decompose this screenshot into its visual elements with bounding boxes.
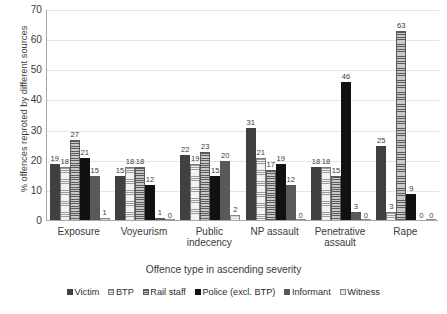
bar-item[interactable]: 15 bbox=[210, 10, 220, 221]
bar-group: 1818154630 bbox=[308, 10, 373, 221]
bar-group-bars: 1518181210 bbox=[112, 10, 177, 221]
bar-item[interactable]: 3 bbox=[386, 10, 396, 221]
bar-group: 1518181210 bbox=[112, 10, 177, 221]
bar-btp[interactable] bbox=[125, 167, 135, 221]
bar-victim[interactable] bbox=[115, 176, 125, 221]
bar-item[interactable]: 25 bbox=[376, 10, 386, 221]
bar-victim[interactable] bbox=[180, 155, 190, 221]
bar-item[interactable]: 46 bbox=[341, 10, 351, 221]
series-swatch-btp bbox=[108, 289, 114, 295]
bar-group-bars: 1818154630 bbox=[308, 10, 373, 221]
bar-victim[interactable] bbox=[246, 128, 256, 221]
y-axis-tick-label: 70 bbox=[12, 5, 42, 15]
bar-item[interactable]: 1 bbox=[100, 10, 110, 221]
legend-item-label: Rail staff bbox=[150, 287, 186, 297]
bar-item[interactable]: 0 bbox=[361, 10, 371, 221]
bar-item[interactable]: 19 bbox=[276, 10, 286, 221]
x-axis-label-np-assault: NP assault bbox=[242, 226, 307, 237]
legend-item-witness[interactable]: Witness bbox=[340, 287, 380, 297]
x-axis-label-line: assault bbox=[307, 237, 372, 248]
x-axis-label-line: Rape bbox=[373, 226, 438, 237]
bar-item[interactable]: 12 bbox=[286, 10, 296, 221]
y-axis-tick-label: 0 bbox=[12, 216, 42, 226]
legend-item-label: Witness bbox=[347, 287, 380, 297]
bar-rail-staff[interactable] bbox=[200, 152, 210, 221]
bar-police-excl-btp[interactable] bbox=[341, 82, 351, 221]
bar-btp[interactable] bbox=[60, 167, 70, 221]
x-axis-label-line: Exposure bbox=[46, 226, 111, 237]
bar-group: 25363900 bbox=[374, 10, 439, 221]
bar-item[interactable]: 15 bbox=[115, 10, 125, 221]
bar-item[interactable]: 21 bbox=[80, 10, 90, 221]
bar-item[interactable]: 12 bbox=[145, 10, 155, 221]
x-axis-label-line: Voyeurism bbox=[111, 226, 176, 237]
bar-rail-staff[interactable] bbox=[331, 176, 341, 221]
series-swatch-police bbox=[195, 289, 201, 295]
legend-item-label: Victim bbox=[75, 287, 100, 297]
bar-victim[interactable] bbox=[50, 164, 60, 221]
bar-item[interactable]: 17 bbox=[266, 10, 276, 221]
bar-item[interactable]: 0 bbox=[165, 10, 175, 221]
bar-item[interactable]: 20 bbox=[220, 10, 230, 221]
bar-item[interactable]: 1 bbox=[155, 10, 165, 221]
legend-item-label: Police (excl. BTP) bbox=[202, 287, 275, 297]
series-swatch-witness bbox=[340, 289, 346, 295]
x-axis-label-line: Public bbox=[177, 226, 242, 237]
bar-item[interactable]: 22 bbox=[180, 10, 190, 221]
bar-item[interactable]: 18 bbox=[321, 10, 331, 221]
legend-item-police-excl-btp[interactable]: Police (excl. BTP) bbox=[195, 287, 276, 297]
legend-item-rail-staff[interactable]: Rail staff bbox=[143, 287, 186, 297]
y-axis-tick-label: 10 bbox=[12, 186, 42, 196]
bar-rail-staff[interactable] bbox=[266, 170, 276, 221]
legend-item-btp[interactable]: BTP bbox=[108, 287, 133, 297]
bar-group-bars: 19182721151 bbox=[47, 10, 112, 221]
bar-item[interactable]: 31 bbox=[246, 10, 256, 221]
legend-item-label: Informant bbox=[292, 287, 331, 297]
bar-item[interactable]: 0 bbox=[416, 10, 426, 221]
bar-item[interactable]: 23 bbox=[200, 10, 210, 221]
bar-police-excl-btp[interactable] bbox=[276, 164, 286, 221]
bar-item[interactable]: 27 bbox=[70, 10, 80, 221]
x-axis-label-rape: Rape bbox=[373, 226, 438, 237]
bar-item[interactable]: 18 bbox=[311, 10, 321, 221]
x-axis-label-line: indecency bbox=[177, 237, 242, 248]
bar-item[interactable]: 18 bbox=[60, 10, 70, 221]
bar-item[interactable]: 19 bbox=[190, 10, 200, 221]
x-axis-label-exposure: Exposure bbox=[46, 226, 111, 237]
bar-item[interactable]: 21 bbox=[256, 10, 266, 221]
legend-item-label: BTP bbox=[116, 287, 134, 297]
plot-area: 1918272115115181812102219231520231211719… bbox=[46, 10, 438, 221]
bar-item[interactable]: 19 bbox=[50, 10, 60, 221]
x-axis-label-penetrative-assault: Penetrativeassault bbox=[307, 226, 372, 248]
bar-item[interactable]: 0 bbox=[296, 10, 306, 221]
chart-legend: VictimBTPRail staffPolice (excl. BTP)Inf… bbox=[0, 287, 447, 297]
bar-police-excl-btp[interactable] bbox=[210, 176, 220, 221]
x-axis-label-line: Penetrative bbox=[307, 226, 372, 237]
series-swatch-informant bbox=[284, 289, 290, 295]
y-axis-tick-label: 50 bbox=[12, 65, 42, 75]
bar-group: 19182721151 bbox=[47, 10, 112, 221]
bar-item[interactable]: 18 bbox=[125, 10, 135, 221]
bar-item[interactable]: 9 bbox=[406, 10, 416, 221]
bar-item[interactable]: 15 bbox=[331, 10, 341, 221]
y-axis-tick-label: 60 bbox=[12, 35, 42, 45]
legend-item-informant[interactable]: Informant bbox=[284, 287, 330, 297]
bar-victim[interactable] bbox=[311, 167, 321, 221]
bar-group-bars: 31211719120 bbox=[243, 10, 308, 221]
y-axis-tick-label: 20 bbox=[12, 156, 42, 166]
x-axis-title: Offence type in ascending severity bbox=[0, 264, 447, 275]
bar-chart: % offences reproted by different sources… bbox=[0, 0, 447, 314]
legend-item-victim[interactable]: Victim bbox=[67, 287, 99, 297]
bar-item[interactable]: 3 bbox=[351, 10, 361, 221]
bar-item[interactable]: 0 bbox=[426, 10, 436, 221]
bar-btp[interactable] bbox=[190, 164, 200, 221]
bar-group-bars: 25363900 bbox=[374, 10, 439, 221]
bar-group: 31211719120 bbox=[243, 10, 308, 221]
bar-item[interactable]: 15 bbox=[90, 10, 100, 221]
bar-group: 22192315202 bbox=[178, 10, 243, 221]
bar-item[interactable]: 18 bbox=[135, 10, 145, 221]
series-swatch-victim bbox=[67, 289, 73, 295]
bar-btp[interactable] bbox=[321, 167, 331, 221]
bar-item[interactable]: 2 bbox=[230, 10, 240, 221]
x-axis-label-line: NP assault bbox=[242, 226, 307, 237]
